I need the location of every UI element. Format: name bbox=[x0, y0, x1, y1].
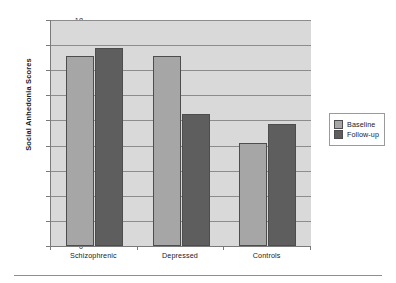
bar-followup bbox=[182, 114, 210, 246]
legend-swatch-follow-up-icon bbox=[334, 130, 343, 139]
bar-baseline bbox=[239, 143, 267, 246]
legend-label-baseline: Baseline bbox=[347, 120, 375, 129]
bar-baseline bbox=[66, 56, 94, 246]
x-axis-tick-mark bbox=[50, 246, 51, 250]
legend-swatch-baseline-icon bbox=[334, 120, 343, 129]
x-axis-tick-mark bbox=[137, 246, 138, 250]
y-axis-title: Social Anhedonia Scores bbox=[24, 25, 33, 185]
gridline bbox=[51, 20, 311, 21]
x-axis-label-controls: Controls bbox=[223, 251, 310, 260]
footer-divider bbox=[14, 275, 382, 276]
legend-item-baseline: Baseline bbox=[334, 120, 379, 129]
bar-followup bbox=[95, 48, 123, 246]
chart-legend: Baseline Follow-up bbox=[329, 113, 385, 146]
gridline bbox=[51, 45, 311, 46]
x-axis-tick-mark bbox=[223, 246, 224, 250]
x-axis-label-depressed: Depressed bbox=[137, 251, 224, 260]
plot-area bbox=[50, 20, 311, 246]
bar-followup bbox=[268, 124, 296, 246]
x-axis-label-schizophrenic: Schizophrenic bbox=[50, 251, 137, 260]
x-axis-line bbox=[50, 246, 311, 247]
x-axis-tick-mark bbox=[310, 246, 311, 250]
legend-label-follow-up: Follow-up bbox=[347, 130, 379, 139]
bar-baseline bbox=[153, 56, 181, 246]
bar-chart-figure: Social Anhedonia Scores 024681012141618 … bbox=[0, 0, 396, 283]
legend-item-follow-up: Follow-up bbox=[334, 130, 379, 139]
